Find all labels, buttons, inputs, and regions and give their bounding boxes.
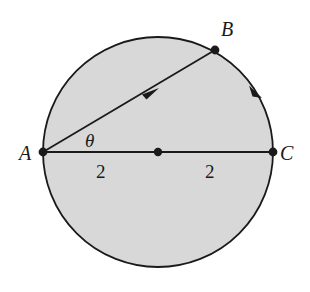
point-marker-b bbox=[211, 46, 220, 55]
length-label-left-radius: 2 bbox=[96, 162, 106, 181]
point-label-b: B bbox=[221, 19, 233, 39]
point-marker-c bbox=[269, 148, 278, 157]
point-marker-center bbox=[154, 148, 162, 156]
point-label-a: A bbox=[19, 143, 31, 163]
geometry-figure: A B C θ 2 2 bbox=[0, 0, 310, 292]
angle-label-theta: θ bbox=[85, 131, 94, 150]
geometry-canvas bbox=[0, 0, 310, 292]
point-label-c: C bbox=[280, 143, 293, 163]
point-marker-a bbox=[39, 148, 48, 157]
length-label-right-radius: 2 bbox=[205, 162, 215, 181]
